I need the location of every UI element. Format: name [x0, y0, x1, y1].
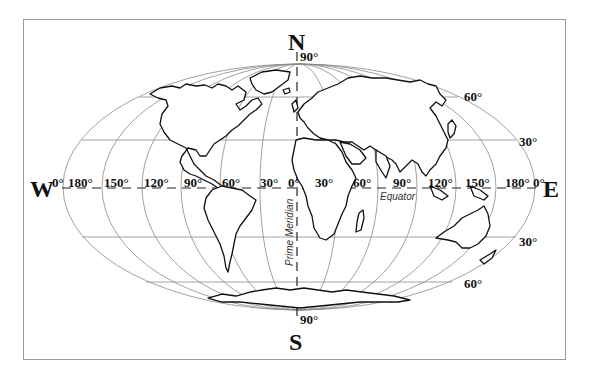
lon-label-e180: 180°: [505, 176, 530, 189]
lon-label-w150: 150°: [104, 176, 129, 189]
lat-label-60n: 60°: [464, 90, 482, 103]
lon-label-w90: 90°: [184, 176, 202, 189]
japan: [448, 120, 456, 138]
iceland: [283, 88, 290, 94]
south-america: [204, 186, 256, 272]
lon-label-w30: 30°: [260, 176, 278, 189]
lat-label-60s: 60°: [464, 277, 482, 290]
lat-label-30n: 30°: [519, 135, 537, 148]
lon-label-e120: 120°: [428, 176, 453, 189]
lon-label-e0: 0°: [533, 176, 545, 189]
lon-label-e150: 150°: [465, 176, 490, 189]
british-isles: [292, 100, 298, 112]
antarctica: [208, 288, 410, 308]
south-label: S: [289, 330, 302, 354]
lon-label-0: 0°: [288, 176, 300, 189]
lon-label-e30: 30°: [315, 176, 333, 189]
madagascar: [356, 210, 364, 232]
lon-label-e90: 90°: [393, 176, 411, 189]
lat-label-30s: 30°: [519, 235, 537, 248]
equator-annotation: Equator: [380, 192, 415, 202]
east-label: E: [543, 177, 559, 201]
prime-meridian-annotation: Prime Meridian: [285, 199, 295, 266]
lon-label-e60: 60°: [353, 176, 371, 189]
west-label: W: [30, 177, 54, 201]
north-america: [150, 84, 262, 188]
north-pole-label: 90°: [300, 50, 318, 63]
south-pole-label: 90°: [300, 313, 318, 326]
australia: [436, 206, 490, 248]
lon-label-w60: 60°: [222, 176, 240, 189]
lon-label-w180: 180°: [68, 176, 93, 189]
lon-label-w0: 0°: [52, 176, 64, 189]
lon-label-w120: 120°: [144, 176, 169, 189]
